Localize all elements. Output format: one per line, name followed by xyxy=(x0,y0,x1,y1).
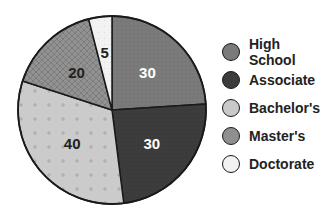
legend-swatch-icon xyxy=(222,99,240,117)
slice-associate xyxy=(112,104,206,203)
data-label: 20 xyxy=(68,64,85,81)
data-label: 30 xyxy=(143,135,160,152)
legend-label: Bachelor's xyxy=(249,100,320,116)
legend-swatch-icon xyxy=(222,127,240,145)
legend-item-associate: Associate xyxy=(222,66,330,94)
legend-item-masters: Master's xyxy=(222,122,330,150)
legend-item-high-school: High School xyxy=(222,38,330,66)
legend: High School Associate Bachelor's Master'… xyxy=(222,38,330,178)
legend-label: Master's xyxy=(249,128,305,144)
slice-high-school xyxy=(112,16,206,110)
legend-item-doctorate: Doctorate xyxy=(222,150,330,178)
legend-swatch-icon xyxy=(222,43,240,61)
legend-swatch-icon xyxy=(222,71,240,89)
legend-label: High School xyxy=(249,36,330,68)
pie-slices xyxy=(18,16,206,204)
legend-label: Doctorate xyxy=(249,156,314,172)
legend-swatch-icon xyxy=(222,155,240,173)
legend-item-bachelors: Bachelor's xyxy=(222,94,330,122)
data-label: 30 xyxy=(139,64,156,81)
data-label: 5 xyxy=(101,44,109,61)
legend-label: Associate xyxy=(249,72,315,88)
data-label: 40 xyxy=(64,135,81,152)
